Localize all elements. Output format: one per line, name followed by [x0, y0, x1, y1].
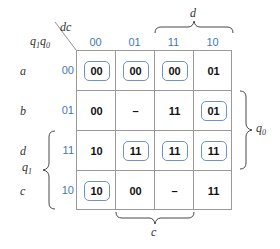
row-name-b: b [20, 104, 26, 119]
cell-value: 00 [84, 101, 110, 121]
kmap-cell: 00 [116, 51, 155, 91]
cell-value: 10 [84, 141, 110, 161]
kmap-cell: 10 [77, 171, 116, 211]
kmap-cell: 11 [155, 91, 194, 131]
cell-value: 01 [201, 61, 227, 81]
column-code-10: 10 [193, 36, 232, 48]
bracket-label-d: d [190, 6, 196, 21]
cell-value: 00 [84, 61, 110, 81]
kmap-cell: 11 [116, 131, 155, 171]
cell-value: 00 [123, 61, 149, 81]
kmap-cell: 11 [194, 131, 233, 171]
bracket-label-q0: q0 [256, 121, 266, 137]
kmap-grid: 00 00 00 01 00 – 11 01 10 11 11 11 10 00… [76, 50, 232, 210]
kmap-cell: 00 [116, 171, 155, 211]
row-code-01: 01 [50, 104, 74, 116]
kmap-cell: 00 [77, 51, 116, 91]
row-name-d: d [20, 144, 26, 159]
kmap-cell: 00 [77, 91, 116, 131]
kmap-cell: – [155, 171, 194, 211]
kmap-cell: 01 [194, 51, 233, 91]
cell-value: 00 [162, 61, 188, 81]
kmap-cell: 10 [77, 131, 116, 171]
row-variable-label: q1q0 [30, 34, 50, 50]
row-code-00: 00 [50, 64, 74, 76]
cell-value: – [123, 101, 149, 121]
column-code-00: 00 [76, 36, 115, 48]
cell-value: 00 [123, 181, 149, 201]
column-variable-label: dc [60, 20, 71, 35]
kmap-cell: 01 [194, 91, 233, 131]
cell-value: 11 [201, 181, 227, 201]
row-code-10: 10 [50, 184, 74, 196]
bracket-label-c: c [151, 225, 156, 240]
cell-value: 11 [201, 141, 227, 161]
kmap-cell: 11 [194, 171, 233, 211]
column-code-11: 11 [154, 36, 193, 48]
kmap-cell: – [116, 91, 155, 131]
row-name-a: a [20, 64, 26, 79]
cell-value: 01 [201, 101, 227, 121]
column-code-01: 01 [115, 36, 154, 48]
kmap-cell: 11 [155, 131, 194, 171]
cell-value: 10 [84, 181, 110, 201]
cell-value: 11 [162, 141, 188, 161]
row-code-11: 11 [50, 144, 74, 156]
cell-value: – [162, 181, 188, 201]
row-name-c: c [20, 184, 25, 199]
kmap-cell: 00 [155, 51, 194, 91]
bracket-label-q1: q1 [22, 160, 32, 176]
cell-value: 11 [123, 141, 149, 161]
cell-value: 11 [162, 101, 188, 121]
